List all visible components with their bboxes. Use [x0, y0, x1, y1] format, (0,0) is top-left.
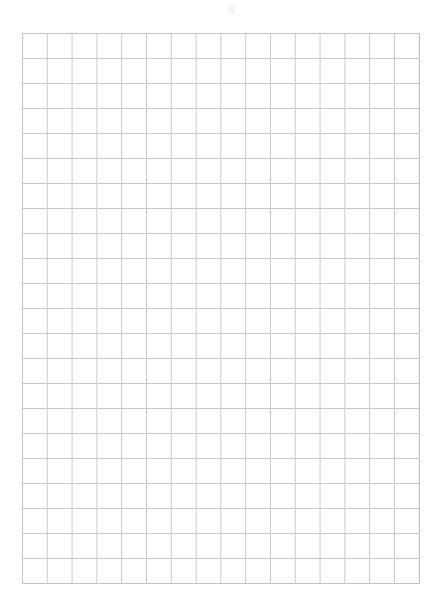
- graph-paper-grid[interactable]: [22, 33, 419, 583]
- page-canvas: [0, 0, 441, 615]
- page-speck-artifact: [228, 5, 235, 14]
